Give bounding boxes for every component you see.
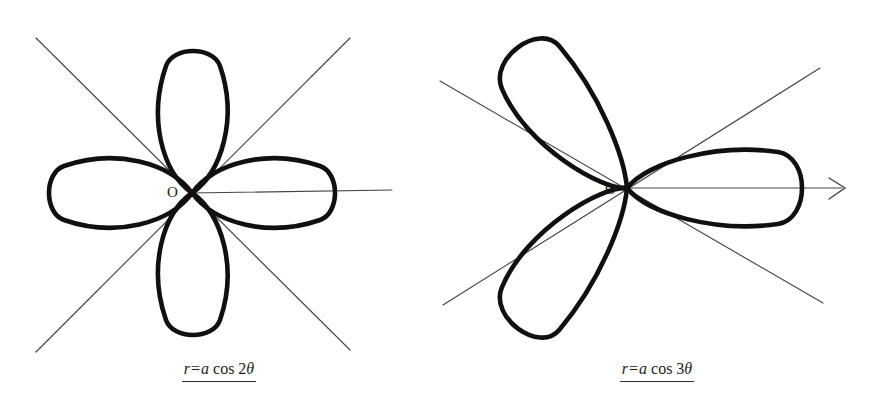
caption-amplitude-a: a <box>201 360 209 377</box>
figure-page: O r=a cos 2θ <box>0 0 876 410</box>
origin-label: O <box>605 182 616 197</box>
guide-line-horizontal-axis <box>192 190 392 193</box>
caption-equals: = <box>190 360 201 377</box>
caption-cos: cos <box>213 360 234 377</box>
polar-rose-2theta-graphic <box>0 0 438 360</box>
guide-line-lower-left-to-upper-right <box>443 68 820 305</box>
figure-rose-3theta: O r=a cos 3θ <box>438 0 876 410</box>
caption-rose-3theta: r=a cos 3θ <box>438 360 876 382</box>
caption-theta: θ <box>246 360 254 377</box>
caption-cos: cos <box>651 360 672 377</box>
caption-equals: = <box>628 360 639 377</box>
caption-rose-2theta: r=a cos 2θ <box>0 360 438 382</box>
figure-rose-2theta: O r=a cos 2θ <box>0 0 438 410</box>
petal-upper-left <box>497 32 627 198</box>
petal-lower-left <box>497 178 627 344</box>
origin-label: O <box>167 185 178 200</box>
polar-rose-3theta-graphic <box>438 0 876 360</box>
caption-theta: θ <box>684 360 692 377</box>
caption-amplitude-a: a <box>639 360 647 377</box>
